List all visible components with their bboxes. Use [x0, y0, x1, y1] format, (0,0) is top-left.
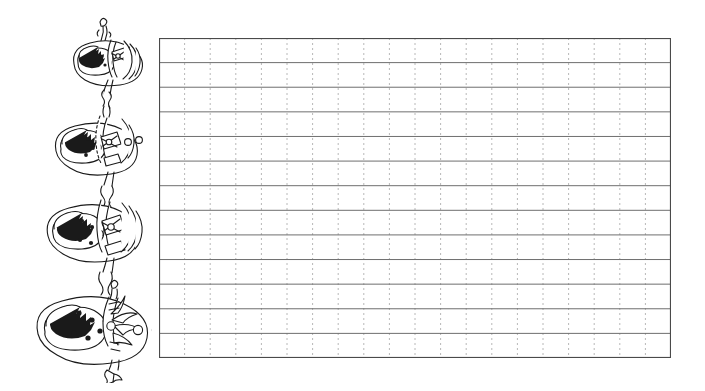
worksheet-page: Handwriting Practice Worksheet Hand-draw…: [0, 0, 705, 391]
wrapped-egg-medium: [55, 106, 142, 215]
handwriting-practice-grid[interactable]: [159, 38, 671, 358]
wrapped-egg-large: [47, 200, 142, 295]
wrapped-egg-largest: [37, 280, 152, 383]
illustration-svg: [12, 8, 152, 383]
writing-grid-svg[interactable]: [159, 38, 671, 358]
stacked-wrapped-eggs-illustration: Hand-drawn black line art of four nested…: [12, 8, 152, 383]
wrapped-egg-small: [74, 18, 143, 108]
